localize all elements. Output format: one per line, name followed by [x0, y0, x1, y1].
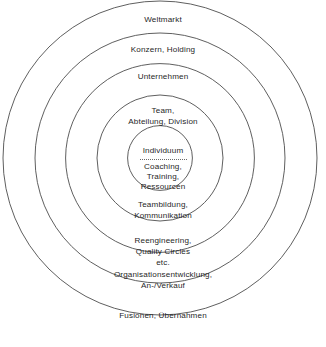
ring-label-scope-weltmarkt: Weltmarkt	[0, 14, 326, 25]
ring-label-intervention-organisationsentwicklung-verkauf: Organisationsentwicklung, An-/Verkauf	[0, 269, 326, 291]
labels-layer: Weltmarkt Konzern, Holding Unternehmen T…	[0, 0, 326, 347]
ring-label-intervention-fusionen-uebernahmen: Fusionen, Übernahmen	[0, 310, 326, 321]
ring-label-scope-team-abteilung-division: Team, Abteilung, Division	[0, 105, 326, 127]
core-intervention-coaching-training-ressourcen: Coaching, Training, Ressourcen	[0, 162, 326, 193]
ring-label-scope-konzern-holding: Konzern, Holding	[0, 44, 326, 55]
core-title-individuum: Individuum	[0, 145, 326, 156]
concentric-circles-diagram: Weltmarkt Konzern, Holding Unternehmen T…	[0, 0, 326, 347]
ring-label-intervention-teambildung-kommunikation: Teambildung, Kommunikation	[0, 199, 326, 221]
core-circle-content: Individuum Coaching, Training, Ressource…	[0, 145, 326, 193]
ring-label-scope-unternehmen: Unternehmen	[0, 71, 326, 82]
core-divider-line	[140, 159, 187, 160]
ring-label-intervention-reengineering-quality-circles: Reengineering, Quality Circles etc.	[0, 235, 326, 269]
